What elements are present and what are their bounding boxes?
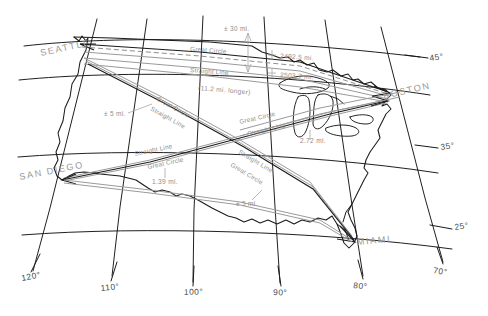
longitude-label-120: 120° <box>20 269 41 283</box>
measure-tolerance-5mi-south: ± 5 mi. <box>236 200 258 207</box>
measure-difference-note: (11.2 mi. longer) <box>198 84 251 97</box>
longitude-label-110: 110° <box>100 281 120 293</box>
longitude-ticks <box>31 247 443 286</box>
city-label-miami: MIAMI <box>356 234 391 247</box>
measure-distance-139: 1.39 mi. <box>152 178 178 185</box>
measure-distance-272: 2.72 mi. <box>300 137 326 144</box>
map-figure: Great Circle Straight Line Great Circle … <box>0 0 488 316</box>
label-great-circle-sea-bos: Great Circle <box>190 45 227 55</box>
longitude-label-90: 90° <box>273 287 288 297</box>
latitude-label-25: 25° <box>454 220 470 232</box>
measure-tolerance-5mi-northwest: ± 5 mi. <box>104 110 126 117</box>
latitude-label-45: 45° <box>429 51 445 63</box>
longitude-label-80: 80° <box>353 280 368 291</box>
measure-tolerance-30mi: ± 30 mi. <box>224 25 249 32</box>
route-sandiego-miami <box>64 180 352 242</box>
latitude-label-35: 35° <box>440 140 456 152</box>
longitude-label-70: 70° <box>433 265 449 277</box>
longitude-label-100: 100° <box>184 286 204 297</box>
city-label-boston: BOSTON <box>382 80 431 101</box>
